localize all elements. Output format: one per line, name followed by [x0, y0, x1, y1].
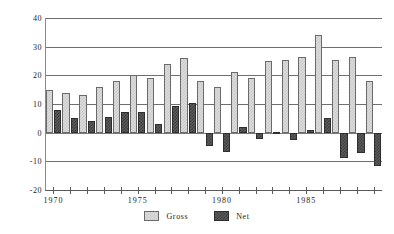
x-axis-tick	[239, 187, 240, 194]
legend-label: Net	[236, 212, 249, 221]
x-axis-tick-label: 1975	[128, 196, 148, 205]
bar-net	[273, 132, 280, 134]
bar-net	[121, 112, 128, 132]
legend-swatch-gross-icon	[144, 211, 159, 221]
bar-net	[71, 118, 78, 133]
y-axis-tick-label: 30	[12, 42, 42, 51]
bar-net	[155, 124, 162, 133]
bar-gross	[113, 81, 120, 133]
legend-label: Gross	[166, 212, 188, 221]
y-axis-tick-label: 40	[12, 14, 42, 23]
x-axis-tick	[256, 187, 257, 194]
bar-gross	[248, 78, 255, 132]
x-axis-tick	[155, 187, 156, 194]
x-axis-tick-label: 1980	[212, 196, 232, 205]
bar-net	[105, 117, 112, 133]
bar-gross	[62, 93, 69, 133]
x-axis-tick	[205, 187, 206, 194]
bar-net	[189, 103, 196, 133]
x-axis-tick-label: 1985	[296, 196, 316, 205]
y-axis-tick-label: 0	[12, 128, 42, 137]
chart-legend: GrossNet	[0, 211, 394, 221]
bar-gross	[46, 90, 53, 133]
x-axis-tick	[323, 187, 324, 194]
y-axis-tick-label: 10	[12, 100, 42, 109]
bar-net	[138, 112, 145, 132]
x-axis-tick	[53, 187, 54, 194]
x-axis-tick-label: 1970	[43, 196, 63, 205]
bar-gross	[332, 60, 339, 133]
bar-gross	[96, 87, 103, 133]
bar-gross	[164, 64, 171, 133]
bar-gross	[282, 60, 289, 133]
bar-chart: 403020100-10-20 1970197519801985 GrossNe…	[0, 0, 394, 234]
bar-net	[324, 118, 331, 133]
bar-gross	[214, 87, 221, 133]
bar-gross	[180, 58, 187, 133]
x-axis-tick	[222, 187, 223, 194]
bar-net	[357, 133, 364, 154]
bar-gross	[298, 57, 305, 133]
x-axis-tick	[374, 187, 375, 194]
bar-net	[172, 106, 179, 133]
bar-net	[307, 130, 314, 133]
bar-gross	[197, 81, 204, 133]
bar-gross	[366, 81, 373, 133]
bar-gross	[147, 78, 154, 132]
bar-net	[340, 133, 347, 159]
x-axis-tick	[70, 187, 71, 194]
bar-net	[206, 133, 213, 147]
legend-item-gross[interactable]: Gross	[144, 211, 188, 221]
bar-net	[256, 133, 263, 139]
x-axis-tick	[138, 187, 139, 194]
bar-gross	[349, 57, 356, 133]
bar-net	[239, 127, 246, 133]
bar-net	[223, 133, 230, 152]
x-axis-tick	[171, 187, 172, 194]
x-axis-tick	[306, 187, 307, 194]
y-axis-tick-label: 20	[12, 71, 42, 80]
x-axis-tick	[340, 187, 341, 194]
bar-gross	[79, 95, 86, 132]
x-axis-tick	[272, 187, 273, 194]
x-axis-tick	[104, 187, 105, 194]
bar-gross	[231, 72, 238, 132]
x-axis-tick	[289, 187, 290, 194]
bar-net	[88, 121, 95, 133]
plot-area	[45, 18, 382, 190]
bar-gross	[265, 61, 272, 133]
bar-net	[54, 110, 61, 133]
x-axis-tick	[188, 187, 189, 194]
y-axis-tick-label: -20	[12, 186, 42, 195]
legend-swatch-net-icon	[214, 211, 229, 221]
bar-net	[290, 133, 297, 140]
y-axis-tick-label: -10	[12, 157, 42, 166]
bar-net	[374, 133, 381, 167]
x-axis-tick	[357, 187, 358, 194]
bar-gross	[130, 75, 137, 132]
legend-item-net[interactable]: Net	[214, 211, 249, 221]
x-axis-tick	[121, 187, 122, 194]
x-axis-tick	[87, 187, 88, 194]
bar-gross	[315, 35, 322, 132]
